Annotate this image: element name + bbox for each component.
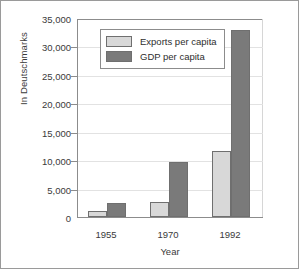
y-axis-tick-mark bbox=[71, 133, 77, 134]
y-axis-tick-label: 35,000 bbox=[25, 14, 71, 25]
y-axis-tick-label: 30,000 bbox=[25, 42, 71, 53]
legend-swatch-gdp bbox=[106, 51, 132, 62]
y-axis-tick-mark bbox=[71, 190, 77, 191]
y-axis-tick-mark bbox=[71, 47, 77, 48]
chart-legend: Exports per capita GDP per capita bbox=[100, 29, 225, 69]
bar-exports-1970 bbox=[150, 202, 169, 217]
legend-swatch-exports bbox=[106, 36, 132, 47]
bar-gdp-1970 bbox=[169, 162, 188, 217]
legend-label-exports: Exports per capita bbox=[140, 36, 217, 47]
x-axis-tick-label: 1955 bbox=[76, 229, 136, 240]
y-axis-tick-mark bbox=[71, 104, 77, 105]
y-axis-tick-mark bbox=[71, 161, 77, 162]
y-axis-tick-labels: 05,00010,00015,00020,00025,00030,00035,0… bbox=[25, 1, 71, 269]
chart-figure: In Deutschmarks 05,00010,00015,00020,000… bbox=[0, 0, 299, 269]
bar-exports-1955 bbox=[88, 211, 107, 217]
y-axis-tick-label: 10,000 bbox=[25, 156, 71, 167]
bar-gdp-1955 bbox=[107, 203, 126, 217]
x-axis-tick-label: 1992 bbox=[200, 229, 260, 240]
y-axis-tick-label: 25,000 bbox=[25, 70, 71, 81]
legend-item-gdp: GDP per capita bbox=[106, 49, 217, 64]
y-axis-tick-label: 20,000 bbox=[25, 99, 71, 110]
x-axis-tick-label: 1970 bbox=[138, 229, 198, 240]
x-axis-title: Year bbox=[77, 246, 263, 257]
bar-gdp-1992 bbox=[231, 30, 250, 217]
y-axis-tick-mark bbox=[71, 76, 77, 77]
legend-label-gdp: GDP per capita bbox=[140, 51, 205, 62]
y-axis-tick-label: 15,000 bbox=[25, 127, 71, 138]
bar-exports-1992 bbox=[212, 151, 231, 217]
y-axis-tick-label: 5,000 bbox=[25, 184, 71, 195]
y-axis-tick-label: 0 bbox=[25, 213, 71, 224]
legend-item-exports: Exports per capita bbox=[106, 34, 217, 49]
